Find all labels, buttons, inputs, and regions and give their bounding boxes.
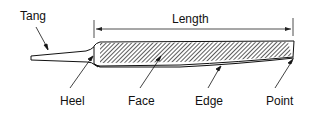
label-heel: Heel: [60, 94, 85, 108]
label-point: Point: [266, 94, 293, 108]
label-edge: Edge: [195, 94, 223, 108]
file-body: [94, 41, 294, 67]
file-tang: [31, 43, 98, 67]
label-face: Face: [128, 94, 155, 108]
label-tang: Tang: [20, 9, 46, 23]
label-length: Length: [172, 12, 209, 26]
